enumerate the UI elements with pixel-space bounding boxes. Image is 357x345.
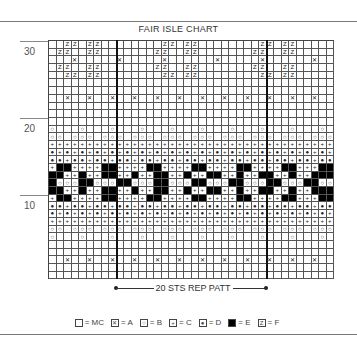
symbol-c-icon: + xyxy=(207,210,214,217)
stitch-cell: + xyxy=(184,218,192,226)
stitch-cell xyxy=(282,95,290,103)
stitch-cell: + xyxy=(304,164,312,172)
symbol-d-icon: ● xyxy=(72,156,79,163)
stitch-cell: + xyxy=(169,195,177,203)
stitch-cell: + xyxy=(94,187,102,195)
stitch-cell xyxy=(169,249,177,257)
stitch-cell: ✕ xyxy=(177,95,185,103)
symbol-b-icon: ○ xyxy=(319,226,326,233)
stitch-cell xyxy=(289,195,297,203)
stitch-cell xyxy=(169,256,177,264)
symbol-c-icon: + xyxy=(87,156,94,163)
stitch-cell: + xyxy=(147,218,155,226)
stitch-cell xyxy=(147,64,155,72)
symbol-c-icon: + xyxy=(87,149,94,156)
stitch-cell xyxy=(184,172,192,180)
symbol-c-icon: + xyxy=(184,164,191,171)
symbol-c-icon: + xyxy=(184,195,191,202)
stitch-cell: + xyxy=(102,149,110,157)
symbol-a-icon: ✕ xyxy=(64,95,71,102)
stitch-cell xyxy=(49,72,57,80)
stitch-cell xyxy=(72,241,80,249)
symbol-c-icon: + xyxy=(57,149,64,156)
symbol-c-icon: + xyxy=(177,210,184,217)
stitch-cell: ● xyxy=(304,210,312,218)
stitch-cell: ○ xyxy=(289,133,297,141)
stitch-cell xyxy=(154,179,162,187)
symbol-f-icon: Z xyxy=(162,49,169,56)
symbol-f-icon: Z xyxy=(94,72,101,79)
stitch-cell xyxy=(154,226,162,234)
stitch-cell xyxy=(229,103,237,111)
stitch-cell xyxy=(192,195,200,203)
symbol-c-icon: + xyxy=(199,218,206,225)
symbol-d-icon: ● xyxy=(169,149,176,156)
stitch-cell xyxy=(289,164,297,172)
stitch-cell xyxy=(169,56,177,64)
symbol-d-icon: ● xyxy=(297,156,304,163)
stitch-cell: + xyxy=(267,156,275,164)
symbol-f-icon: Z xyxy=(289,41,296,48)
symbol-b-icon: ○ xyxy=(237,133,244,140)
stitch-cell xyxy=(244,164,252,172)
stitch-cell xyxy=(49,103,57,111)
stitch-cell xyxy=(154,41,162,49)
stitch-cell: + xyxy=(79,195,87,203)
stitch-cell xyxy=(147,256,155,264)
symbol-c-icon: + xyxy=(87,164,94,171)
symbol-c-icon: + xyxy=(289,141,296,148)
stitch-cell: ● xyxy=(229,202,237,210)
stitch-cell xyxy=(244,41,252,49)
symbol-a-icon: ✕ xyxy=(222,256,229,263)
stitch-cell: ✕ xyxy=(199,256,207,264)
symbol-d-icon: ● xyxy=(282,202,289,209)
stitch-cell xyxy=(304,103,312,111)
symbol-d-icon: ● xyxy=(289,149,296,156)
stitch-cell: ○ xyxy=(49,233,57,241)
stitch-cell xyxy=(237,118,245,126)
symbol-b-icon: ○ xyxy=(282,133,289,140)
symbol-c-icon: + xyxy=(274,164,281,171)
stitch-cell: Z xyxy=(57,64,65,72)
stitch-cell xyxy=(147,95,155,103)
stitch-cell: ● xyxy=(57,156,65,164)
symbol-a-icon: ✕ xyxy=(177,256,184,263)
symbol-c-icon: + xyxy=(147,149,154,156)
symbol-c-icon: + xyxy=(304,187,311,194)
stitch-cell: + xyxy=(177,141,185,149)
stitch-cell: + xyxy=(229,195,237,203)
stitch-cell xyxy=(229,179,237,187)
stitch-cell: + xyxy=(117,218,125,226)
stitch-cell xyxy=(327,164,335,172)
stitch-cell xyxy=(177,41,185,49)
stitch-cell: Z xyxy=(64,72,72,80)
stitch-cell: + xyxy=(117,141,125,149)
stitch-cell: + xyxy=(267,218,275,226)
stitch-cell xyxy=(297,41,305,49)
symbol-c-icon: + xyxy=(147,172,154,179)
symbol-b-icon: ○ xyxy=(207,226,214,233)
stitch-cell xyxy=(192,179,200,187)
stitch-cell: ● xyxy=(147,156,155,164)
stitch-cell xyxy=(72,87,80,95)
stitch-cell xyxy=(282,79,290,87)
symbol-b-icon: ○ xyxy=(327,179,334,186)
symbol-d-icon: ● xyxy=(184,156,191,163)
stitch-cell xyxy=(237,95,245,103)
stitch-cell xyxy=(274,87,282,95)
stitch-cell: Z xyxy=(94,41,102,49)
stitch-cell: ✕ xyxy=(199,95,207,103)
stitch-cell xyxy=(162,172,170,180)
stitch-cell: ○ xyxy=(117,133,125,141)
stitch-cell xyxy=(244,87,252,95)
symbol-a-icon: ✕ xyxy=(199,95,206,102)
stitch-cell xyxy=(199,72,207,80)
row-tick xyxy=(20,195,48,196)
stitch-cell: ○ xyxy=(147,226,155,234)
stitch-cell xyxy=(304,95,312,103)
symbol-b-icon: ○ xyxy=(72,133,79,140)
symbol-d-icon: ● xyxy=(139,202,146,209)
stitch-cell xyxy=(274,226,282,234)
stitch-cell: ○ xyxy=(252,133,260,141)
symbol-a-icon: ✕ xyxy=(312,56,319,63)
